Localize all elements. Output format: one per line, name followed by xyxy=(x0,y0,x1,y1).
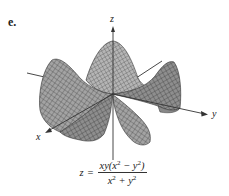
equation-lhs: z xyxy=(80,167,84,178)
z-axis-arrowhead xyxy=(111,26,115,32)
equation-denominator: x2 + y2 xyxy=(108,173,137,186)
equation-numerator: xy(x2 − y2) xyxy=(98,159,147,173)
y-axis-arrowhead xyxy=(201,111,208,117)
x-axis-arrowhead xyxy=(45,128,52,134)
z-axis-label: z xyxy=(110,13,114,24)
x-axis-label: x xyxy=(36,131,40,142)
equation-equals: = xyxy=(88,167,94,178)
equation-fraction: xy(x2 − y2) x2 + y2 xyxy=(98,159,147,186)
y-axis-label: y xyxy=(212,108,216,119)
surface-equation: z = xy(x2 − y2) x2 + y2 xyxy=(58,159,168,186)
